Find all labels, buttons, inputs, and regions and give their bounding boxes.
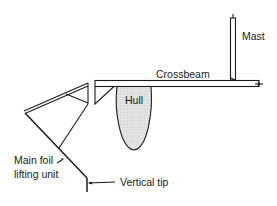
mast-label: Mast — [242, 30, 265, 42]
leader-lines — [57, 158, 115, 185]
crossbeam — [95, 81, 263, 87]
crossbeam-label: Crossbeam — [156, 68, 210, 80]
hull-bracket — [95, 87, 114, 105]
hydrofoil-diagram: Mast Crossbeam Hull Main foil lifting un… — [0, 0, 277, 206]
main-foil-label-line1: Main foil — [14, 154, 53, 166]
main-foil-label-line2: lifting unit — [14, 168, 58, 180]
vertical-tip-label: Vertical tip — [120, 176, 169, 188]
hull-label: Hull — [125, 94, 143, 106]
mast — [231, 14, 236, 80]
